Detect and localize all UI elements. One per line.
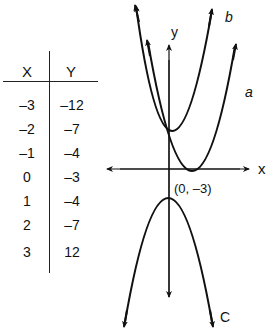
curve-label-c: C: [220, 309, 230, 325]
parabola-graph: [0, 0, 272, 332]
curve-label-a: a: [245, 84, 253, 100]
y-axis-label: y: [171, 24, 178, 40]
x-axis-label: x: [258, 160, 266, 177]
vertex-label: (0, –3): [174, 181, 212, 196]
parabola-a: [148, 42, 235, 171]
curve-label-b: b: [225, 9, 233, 25]
